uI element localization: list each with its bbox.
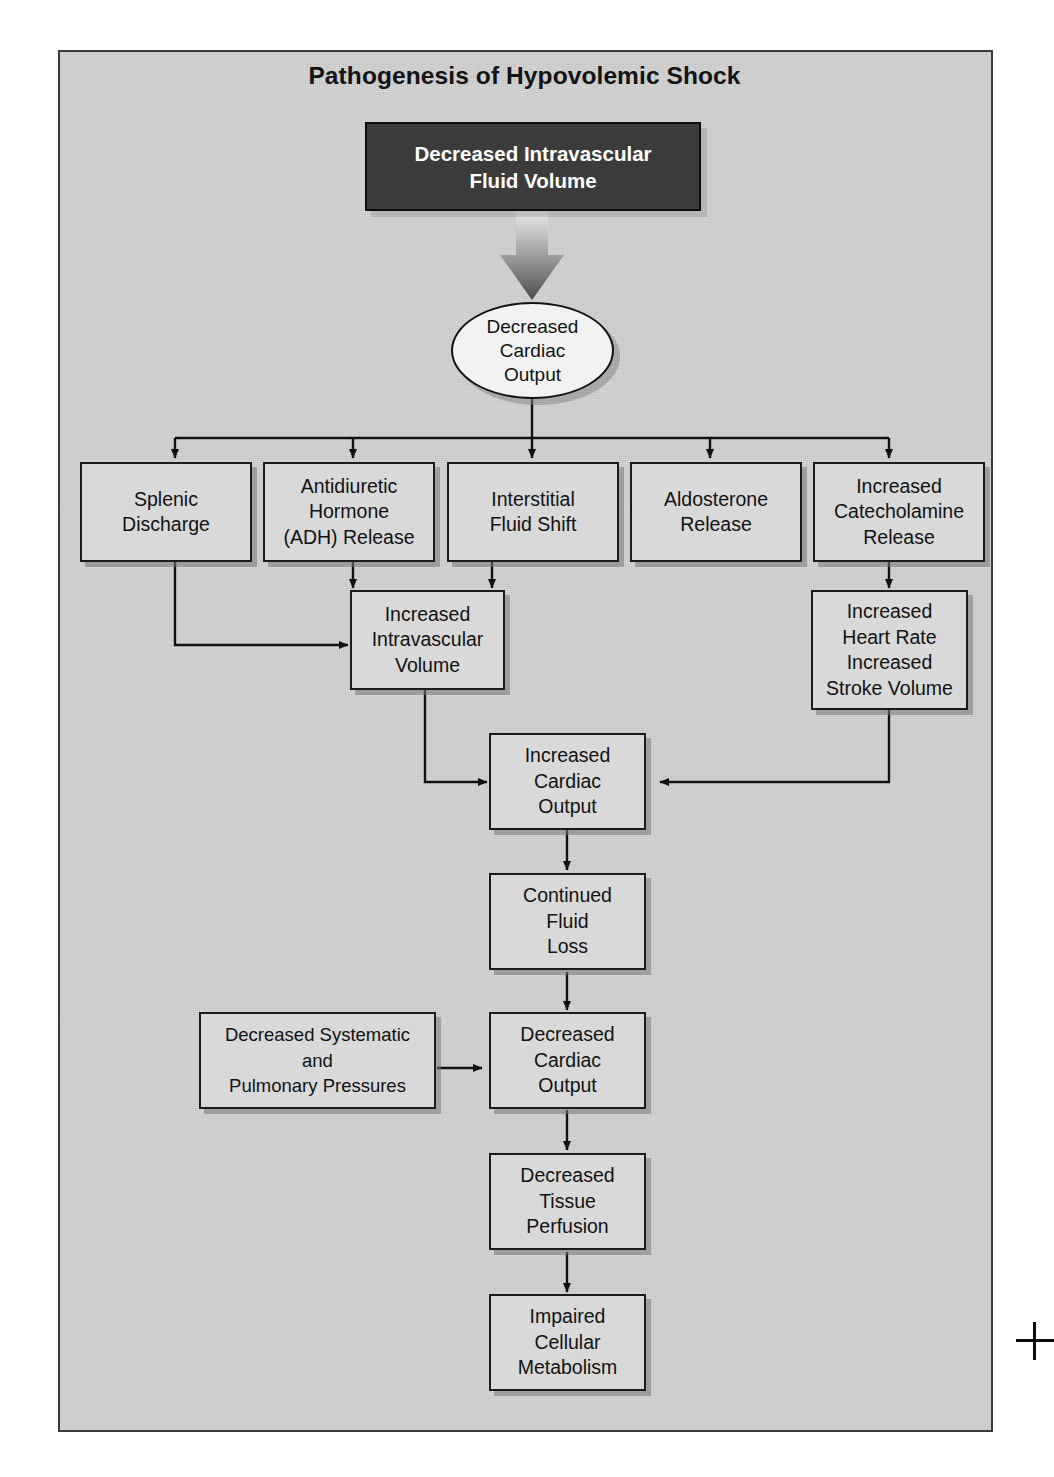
node-antidiuretic-hormone-release: Antidiuretic Hormone (ADH) Release (263, 462, 435, 562)
node-continued-fluid-loss: Continued Fluid Loss (489, 873, 646, 970)
node-line: Release (834, 525, 964, 551)
node-line: Tissue (520, 1189, 614, 1215)
node-decreased-systematic-pulmonary-pressures: Decreased Systematic and Pulmonary Press… (199, 1012, 436, 1109)
node-line: Fluid Volume (414, 167, 651, 194)
node-splenic-discharge: Splenic Discharge (80, 462, 252, 562)
node-line: (ADH) Release (283, 525, 414, 551)
node-line: Cardiac (525, 769, 611, 795)
node-line: Increased (525, 743, 611, 769)
node-decreased-intravascular-fluid-volume: Decreased Intravascular Fluid Volume (365, 122, 701, 211)
node-line: Cellular (518, 1330, 618, 1356)
page-title: Pathogenesis of Hypovolemic Shock (0, 62, 1049, 90)
node-line: Interstitial (490, 487, 577, 513)
node-line: Splenic (122, 487, 210, 513)
node-line: Decreased (520, 1022, 614, 1048)
node-line: Decreased (520, 1163, 614, 1189)
node-line: Increased (826, 650, 953, 676)
node-impaired-cellular-metabolism: Impaired Cellular Metabolism (489, 1294, 646, 1391)
node-line: Pulmonary Pressures (225, 1073, 410, 1099)
node-decreased-cardiac-output-primary: Decreased Cardiac Output (451, 302, 614, 399)
node-line: Fluid Shift (490, 512, 577, 538)
node-increased-heart-rate-stroke-volume: Increased Heart Rate Increased Stroke Vo… (811, 590, 968, 710)
node-line: Output (520, 1073, 614, 1099)
node-line: Hormone (283, 499, 414, 525)
node-line: and (225, 1048, 410, 1074)
node-line: Output (487, 363, 579, 387)
node-line: Volume (372, 653, 484, 679)
node-line: Decreased Systematic (225, 1022, 410, 1048)
node-increased-cardiac-output: Increased Cardiac Output (489, 733, 646, 830)
node-line: Decreased Intravascular (414, 140, 651, 167)
node-line: Decreased (487, 315, 579, 339)
node-line: Continued (523, 883, 612, 909)
node-aldosterone-release: Aldosterone Release (630, 462, 802, 562)
node-line: Fluid (523, 909, 612, 935)
node-line: Aldosterone (664, 487, 768, 513)
node-line: Loss (523, 934, 612, 960)
node-line: Increased (372, 602, 484, 628)
node-increased-catecholamine-release: Increased Catecholamine Release (813, 462, 985, 562)
node-line: Cardiac (520, 1048, 614, 1074)
node-line: Metabolism (518, 1355, 618, 1381)
crop-mark-icon (1016, 1322, 1054, 1360)
node-decreased-cardiac-output-secondary: Decreased Cardiac Output (489, 1012, 646, 1109)
node-line: Heart Rate (826, 625, 953, 651)
node-line: Impaired (518, 1304, 618, 1330)
node-increased-intravascular-volume: Increased Intravascular Volume (350, 590, 505, 690)
node-line: Antidiuretic (283, 474, 414, 500)
node-line: Discharge (122, 512, 210, 538)
node-line: Perfusion (520, 1214, 614, 1240)
node-line: Release (664, 512, 768, 538)
node-interstitial-fluid-shift: Interstitial Fluid Shift (447, 462, 619, 562)
node-line: Increased (826, 599, 953, 625)
node-line: Cardiac (487, 339, 579, 363)
node-line: Output (525, 794, 611, 820)
node-line: Intravascular (372, 627, 484, 653)
node-line: Stroke Volume (826, 676, 953, 702)
node-decreased-tissue-perfusion: Decreased Tissue Perfusion (489, 1153, 646, 1250)
node-line: Catecholamine (834, 499, 964, 525)
node-line: Increased (834, 474, 964, 500)
